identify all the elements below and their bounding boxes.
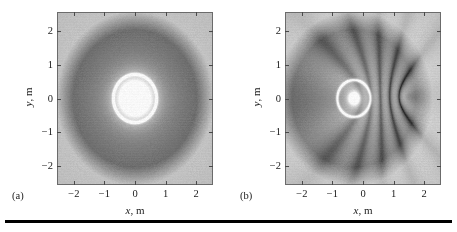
x-tick-mark-top (135, 12, 136, 16)
y-tick-mark-right (209, 166, 213, 167)
x-axis-unit: , m (358, 204, 372, 216)
x-tick-mark (394, 181, 395, 185)
y-tick-label: −2 (261, 161, 281, 172)
x-tick-mark (104, 181, 105, 185)
plot-frame-b (285, 12, 441, 185)
x-tick-mark-top (302, 12, 303, 16)
x-tick-mark-top (332, 12, 333, 16)
y-tick-label: 2 (33, 25, 53, 36)
y-tick-label: 1 (33, 59, 53, 70)
panel-caption-b: (b) (240, 190, 252, 201)
y-tick-label: −1 (33, 127, 53, 138)
y-tick-mark-right (437, 166, 441, 167)
x-tick-mark-top (363, 12, 364, 16)
y-tick-mark (57, 65, 61, 66)
y-tick-mark (57, 99, 61, 100)
plot-frame-a (57, 12, 213, 185)
y-axis-unit: , m (250, 87, 262, 101)
x-tick-mark-top (424, 12, 425, 16)
x-tick-label: 2 (422, 189, 427, 200)
wave-field-plot-a (58, 13, 212, 184)
x-tick-mark (166, 181, 167, 185)
panel-b: −2−1012210−1−2 x, m y, m (b) (228, 0, 457, 205)
x-tick-mark (196, 181, 197, 185)
x-tick-mark (332, 181, 333, 185)
y-tick-label: −1 (261, 127, 281, 138)
x-axis-unit: , m (130, 204, 144, 216)
y-axis-unit: , m (22, 87, 34, 101)
x-tick-label: −2 (68, 189, 79, 200)
x-tick-mark (363, 181, 364, 185)
x-tick-label: 1 (163, 189, 168, 200)
x-tick-label: −1 (327, 189, 338, 200)
y-tick-mark-right (437, 132, 441, 133)
x-axis-title-a: x, m (126, 204, 145, 216)
y-tick-mark (57, 166, 61, 167)
x-tick-label: 0 (360, 189, 365, 200)
y-tick-mark (285, 166, 289, 167)
x-tick-mark-top (196, 12, 197, 16)
x-tick-mark-top (74, 12, 75, 16)
y-tick-label: −2 (33, 161, 53, 172)
y-tick-mark (285, 99, 289, 100)
x-tick-mark (135, 181, 136, 185)
y-tick-label: 1 (261, 59, 281, 70)
bottom-rule (5, 220, 452, 223)
y-tick-mark (57, 31, 61, 32)
y-tick-label: 2 (261, 25, 281, 36)
x-tick-mark-top (166, 12, 167, 16)
y-axis-title-a: y, m (22, 77, 34, 117)
y-tick-mark-right (209, 65, 213, 66)
figure: −2−1012210−1−2 x, m y, m (a) −2−1012210−… (0, 0, 457, 232)
x-tick-label: 2 (194, 189, 199, 200)
y-tick-mark-right (209, 31, 213, 32)
y-tick-mark-right (209, 132, 213, 133)
x-tick-label: −1 (99, 189, 110, 200)
y-tick-mark-right (437, 31, 441, 32)
panel-a: −2−1012210−1−2 x, m y, m (a) (0, 0, 229, 205)
x-tick-mark-top (394, 12, 395, 16)
x-tick-mark (302, 181, 303, 185)
y-tick-mark (285, 31, 289, 32)
y-tick-mark-right (437, 99, 441, 100)
y-tick-label: 0 (261, 93, 281, 104)
y-tick-mark (285, 132, 289, 133)
x-tick-mark (424, 181, 425, 185)
x-tick-mark-top (104, 12, 105, 16)
x-tick-label: −2 (296, 189, 307, 200)
y-tick-mark (285, 65, 289, 66)
x-tick-label: 1 (391, 189, 396, 200)
x-tick-mark (74, 181, 75, 185)
y-tick-mark-right (437, 65, 441, 66)
y-tick-label: 0 (33, 93, 53, 104)
y-tick-mark (57, 132, 61, 133)
wave-field-plot-b (286, 13, 440, 184)
panel-caption-a: (a) (12, 190, 24, 201)
x-axis-title-b: x, m (354, 204, 373, 216)
y-axis-title-b: y, m (250, 77, 262, 117)
x-tick-label: 0 (132, 189, 137, 200)
y-tick-mark-right (209, 99, 213, 100)
